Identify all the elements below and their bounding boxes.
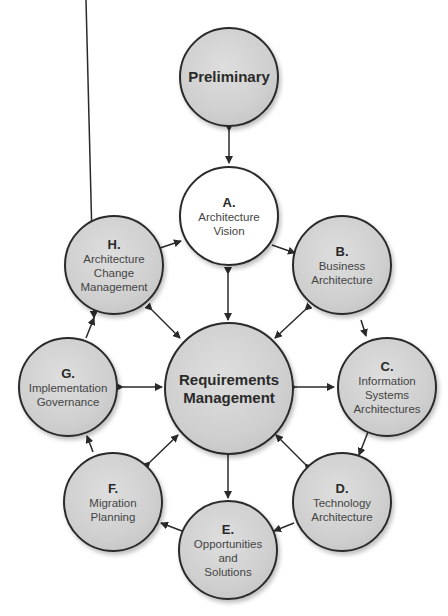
phase-f-line1: Migration — [89, 496, 136, 510]
phase-f-line2: Planning — [91, 510, 136, 524]
phase-d-letter: D. — [336, 481, 349, 496]
node-phase-e: E. Opportunities and Solutions — [178, 500, 278, 600]
requirements-title-line2: Management — [183, 389, 275, 407]
phase-h-letter: H. — [108, 237, 121, 252]
phase-b-letter: B. — [336, 244, 349, 259]
node-preliminary: Preliminary — [179, 27, 279, 127]
node-phase-f: F. Migration Planning — [63, 452, 163, 552]
phase-e-line2: and — [218, 551, 237, 565]
node-phase-d: D. Technology Architecture — [292, 452, 392, 552]
phase-e-line1: Opportunities — [194, 537, 262, 551]
phase-h-line1: Architecture — [83, 252, 144, 266]
requirements-title-line1: Requirements — [179, 371, 279, 389]
node-phase-h: H. Architecture Change Management — [64, 215, 164, 315]
phase-b-line1: Business — [319, 259, 366, 273]
phase-c-line1: Information — [358, 374, 416, 388]
phase-h-line3: Management — [80, 280, 147, 294]
phase-a-line2: Vision — [213, 224, 244, 238]
phase-c-line2: Systems — [365, 388, 409, 402]
phase-e-letter: E. — [222, 522, 234, 537]
phase-b-line2: Architecture — [311, 273, 372, 287]
phase-h-line2: Change — [94, 266, 134, 280]
preliminary-title: Preliminary — [188, 68, 270, 86]
phase-d-line1: Technology — [313, 496, 371, 510]
node-phase-g: G. Implementation Governance — [18, 337, 118, 437]
phase-f-letter: F. — [108, 481, 118, 496]
phase-g-letter: G. — [61, 366, 75, 381]
phase-a-letter: A. — [223, 195, 236, 210]
phase-d-line2: Architecture — [311, 510, 372, 524]
phase-c-letter: C. — [381, 359, 394, 374]
node-phase-a: A. Architecture Vision — [179, 166, 279, 266]
phase-a-line1: Architecture — [198, 210, 259, 224]
phase-g-line2: Governance — [37, 395, 100, 409]
phase-c-line3: Architectures — [353, 402, 420, 416]
node-phase-b: B. Business Architecture — [292, 215, 392, 315]
phase-g-line1: Implementation — [29, 381, 108, 395]
node-requirements-management: Requirements Management — [164, 322, 294, 455]
phase-e-line3: Solutions — [204, 565, 251, 579]
node-phase-c: C. Information Systems Architectures — [337, 337, 437, 437]
